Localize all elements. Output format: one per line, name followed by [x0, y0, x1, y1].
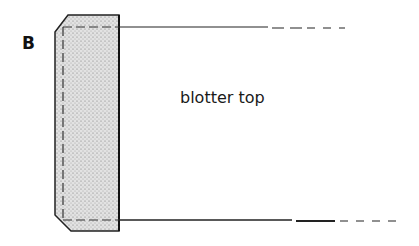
end-cap — [55, 15, 119, 231]
blotter-diagram — [0, 0, 419, 246]
panel-label: B — [22, 33, 35, 53]
blotter-bottom-edge — [119, 220, 402, 221]
blotter-top-edge — [119, 27, 345, 28]
blotter-top-label: blotter top — [180, 88, 265, 107]
